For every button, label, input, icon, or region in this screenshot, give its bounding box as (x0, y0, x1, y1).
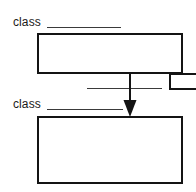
inheritance-arrow-icon (120, 72, 140, 118)
subclass-box[interactable] (37, 116, 183, 184)
superclass-name-blank[interactable] (47, 27, 121, 28)
superclass-value-box-1[interactable] (169, 73, 196, 90)
superclass-box[interactable] (37, 33, 183, 74)
subclass-name-blank[interactable] (47, 109, 123, 110)
diagram-canvas: class class (0, 0, 196, 192)
superclass-label: class (13, 16, 41, 28)
subclass-label: class (13, 98, 41, 110)
